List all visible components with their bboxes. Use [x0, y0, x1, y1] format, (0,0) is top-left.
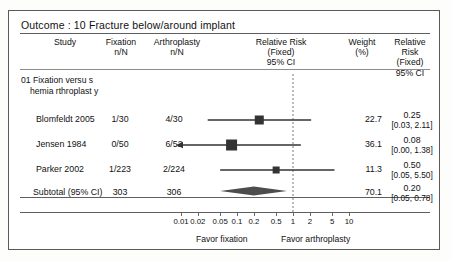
row-study-name: Jensen 1984	[36, 139, 98, 149]
row-study-name: Parker 2002	[36, 164, 98, 174]
axis-tick-label: 0.5	[271, 217, 282, 226]
table-row: Blomfeldt 2005 1/30 4/30 22.7 0.25 [0.03…	[0, 110, 452, 132]
outcome-title: Outcome : 10 Fracture below/around impla…	[21, 19, 235, 31]
table-row: Parker 2002 1/223 2/224 11.3 0.50 [0.05,…	[0, 160, 452, 182]
row-weight: 36.1	[338, 139, 382, 149]
row-estimate-ci: [0.05, 5.50]	[386, 170, 438, 180]
column-header-arthroplasty-line2: n/N	[146, 47, 208, 57]
axis-tick	[254, 213, 255, 216]
axis-tick-label: 5	[330, 217, 334, 226]
column-header-relative-risk: Relative Risk (Fixed) 95% CI	[216, 37, 346, 68]
axis-tick-label: 0.2	[248, 217, 259, 226]
axis-tick-label: 0.02	[190, 217, 205, 226]
column-header-rr-line2: (Fixed)	[216, 47, 346, 57]
column-header-rr2-line2: Risk	[386, 47, 434, 57]
row-estimate-value: 0.50	[386, 160, 438, 170]
row-weight: 22.7	[338, 114, 382, 124]
column-header-fixation-line1: Fixation	[96, 37, 146, 47]
row-fixation: 1/30	[98, 114, 142, 124]
column-header-fixation-line2: n/N	[96, 47, 146, 57]
table-row: Jensen 1984 0/50 6/52 36.1 0.08 [0.00, 1…	[0, 135, 452, 157]
axis-tick	[198, 213, 199, 216]
axis-tick	[349, 213, 350, 216]
column-header-weight-line2: (%)	[340, 47, 384, 57]
subtotal-arthroplasty: 306	[148, 187, 200, 197]
row-estimate-value: 0.25	[386, 110, 438, 120]
row-fixation: 0/50	[98, 139, 142, 149]
row-estimate: 0.25 [0.03, 2.11]	[386, 110, 438, 130]
axis-tick-label: 0.1	[232, 217, 243, 226]
column-header-relative-risk-value: Relative Risk (Fixed) 95% CI	[386, 37, 434, 78]
axis-tick	[220, 213, 221, 216]
row-arthroplasty: 2/224	[148, 164, 200, 174]
column-header-arthroplasty: Arthroplasty n/N	[146, 37, 208, 57]
favor-fixation-label: Favor fixation	[196, 234, 248, 244]
row-study-name: Blomfeldt 2005	[36, 114, 98, 124]
axis-tick	[181, 213, 182, 216]
axis-tick-label: 2	[308, 217, 312, 226]
axis-tick-label: 0.05	[213, 217, 228, 226]
subtotal-estimate: 0.20 [0.05, 0.78]	[386, 183, 438, 203]
column-header-weight-line1: Weight	[340, 37, 384, 47]
column-header-rr2-line1: Relative	[386, 37, 434, 47]
axis-tick-label: 1	[291, 217, 295, 226]
row-estimate-value: 0.08	[386, 135, 438, 145]
row-arthroplasty: 4/30	[148, 114, 200, 124]
subgroup-heading-line1: 01 Fixation versu s	[21, 75, 98, 86]
column-header-weight: Weight (%)	[340, 37, 384, 57]
subtotal-estimate-ci: [0.05, 0.78]	[386, 193, 438, 203]
column-header-study-label: Study	[36, 37, 94, 47]
row-estimate-ci: [0.00, 1.38]	[386, 145, 438, 155]
rule-under-title	[20, 33, 430, 34]
subtotal-fixation: 303	[98, 187, 142, 197]
column-header-rr-line1: Relative Risk	[216, 37, 346, 47]
subtotal-row: Subtotal (95% CI) 303 306 70.1 0.20 [0.0…	[0, 183, 452, 205]
axis-tick-label: 0.01	[173, 217, 188, 226]
favor-arthroplasty-label: Favor arthroplasty	[281, 234, 350, 244]
column-header-rr2-line4: 95% CI	[386, 68, 434, 78]
subgroup-heading: 01 Fixation versu s hemia rthroplast y	[21, 75, 98, 97]
row-arthroplasty: 6/52	[148, 139, 200, 149]
column-header-fixation: Fixation n/N	[96, 37, 146, 57]
rule-above-axis	[20, 212, 430, 213]
row-weight: 11.3	[338, 164, 382, 174]
row-fixation: 1/223	[98, 164, 142, 174]
row-estimate-ci: [0.03, 2.11]	[386, 120, 438, 130]
axis-tick	[332, 213, 333, 216]
axis-tick-label: 10	[345, 217, 354, 226]
forest-plot-figure: Outcome : 10 Fracture below/around impla…	[0, 0, 452, 261]
axis-tick	[293, 213, 294, 216]
column-header-arthroplasty-line1: Arthroplasty	[146, 37, 208, 47]
axis-tick	[276, 213, 277, 216]
axis-tick	[237, 213, 238, 216]
subgroup-heading-line2: hemia rthroplast y	[21, 86, 98, 97]
rule-under-header	[20, 69, 430, 70]
column-header-rr2-line3: (Fixed)	[386, 57, 434, 67]
subtotal-weight: 70.1	[338, 187, 382, 197]
row-estimate: 0.50 [0.05, 5.50]	[386, 160, 438, 180]
axis-tick	[310, 213, 311, 216]
row-estimate: 0.08 [0.00, 1.38]	[386, 135, 438, 155]
column-header-rr-line3: 95% CI	[216, 57, 346, 67]
subtotal-estimate-value: 0.20	[386, 183, 438, 193]
column-header-study: Study	[36, 37, 94, 47]
